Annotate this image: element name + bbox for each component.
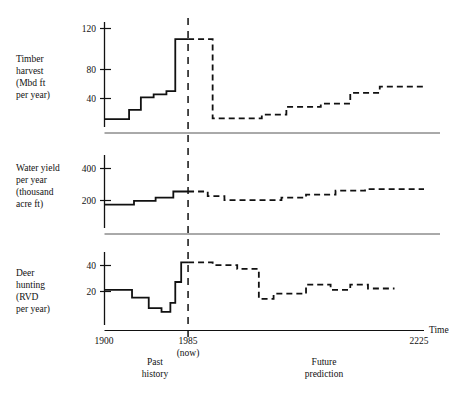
panel2-tick-label-400: 400 [82, 164, 97, 174]
x-tick-label-2225: 2225 [410, 336, 429, 346]
panel1-tick-label-40: 40 [87, 94, 97, 104]
x-tick-label-1985: 1985 [179, 336, 198, 346]
panel3-future-series [188, 262, 394, 299]
panel3-tick-label-20: 20 [87, 287, 97, 297]
panel3-ylabel-line1: Deer [16, 268, 35, 278]
panel2-ylabel-line2: per year [16, 175, 48, 185]
panel2-ylabel-line4: acre ft) [16, 199, 43, 210]
x-tick-label-1900: 1900 [95, 336, 114, 346]
panel1-tick-label-120: 120 [82, 24, 97, 34]
region-label-future-line1: Future [312, 357, 337, 367]
x-axis-title: Time [429, 325, 449, 335]
panel3-past-series [105, 262, 189, 312]
panel3-ylabel-line2: hunting [16, 280, 45, 290]
panel2-future-series [188, 189, 424, 200]
region-label-future-line2: prediction [305, 369, 344, 379]
panel2-past-series [105, 192, 189, 205]
panel2-tick-label-200: 200 [82, 196, 97, 206]
panel1-ylabel-line1: Timber [16, 54, 44, 64]
figure-container: 120 80 40 Timber harvest (Mbd ft per yea… [0, 0, 461, 396]
region-label-past-line1: Past [147, 357, 163, 367]
panel-deer-hunting: 40 20 Deer hunting (RVD per year) [16, 252, 424, 331]
panel1-ylabel-line3: (Mbd ft [16, 78, 46, 89]
panel2-ylabel-line1: Water yield [16, 163, 60, 173]
panel2-ylabel-line3: (thousand [16, 187, 54, 198]
panel3-ylabel-line4: per year) [16, 304, 50, 315]
panel1-ylabel-line4: per year) [16, 90, 50, 101]
panel3-ylabel-line3: (RVD [16, 292, 39, 303]
panel-water-yield: 400 200 Water yield per year (thousand a… [16, 155, 440, 234]
region-label-past-line2: history [142, 369, 169, 379]
panel-timber-harvest: 120 80 40 Timber harvest (Mbd ft per yea… [16, 22, 440, 133]
panel1-tick-label-80: 80 [87, 65, 97, 75]
panel1-future-series [188, 39, 424, 118]
panel3-tick-label-40: 40 [87, 261, 97, 271]
panel1-ylabel-line2: harvest [16, 66, 44, 76]
time-series-chart: 120 80 40 Timber harvest (Mbd ft per yea… [0, 0, 461, 396]
x-tick-label-now: (now) [177, 348, 200, 359]
panel1-past-series [105, 39, 189, 119]
